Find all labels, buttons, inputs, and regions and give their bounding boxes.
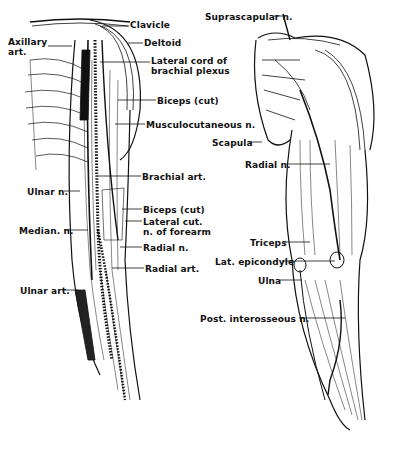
label-ulna: Ulna <box>258 276 281 286</box>
label-musculocutaneous-n: Musculocutaneous n. <box>146 120 255 130</box>
label-lat-epicondyle: Lat. epicondyle <box>215 257 294 267</box>
ribcage <box>25 59 88 170</box>
label-axillary-art: Axillary art. <box>8 37 48 57</box>
label-ulnar-n: Ulnar n. <box>27 187 68 197</box>
label-ulnar-art: Ulnar art. <box>20 286 70 296</box>
label-radial-n-right: Radial n. <box>245 160 291 170</box>
left-arm-anterior-view <box>25 19 140 400</box>
label-triceps: Triceps <box>250 238 287 248</box>
label-lateral-cord: Lateral cord of brachial plexus <box>151 56 231 76</box>
label-radial-n-left: Radial n. <box>143 243 189 253</box>
right-arm-posterior-view <box>255 14 375 430</box>
label-median-n: Median. n. <box>19 226 73 236</box>
label-deltoid: Deltoid <box>144 38 181 48</box>
label-clavicle: Clavicle <box>130 20 170 30</box>
label-scapula: Scapula <box>212 138 253 148</box>
label-lateral-cut-n: Lateral cut. n. of forearm <box>143 217 211 237</box>
label-radial-art: Radial art. <box>145 264 199 274</box>
label-biceps-cut-upper: Biceps (cut) <box>157 96 219 106</box>
label-suprascapular-n: Suprascapular n. <box>205 12 293 22</box>
label-post-interosseous-n: Post. interosseous n. <box>200 314 309 324</box>
label-biceps-cut-lower: Biceps (cut) <box>143 205 205 215</box>
label-brachial-art: Brachial art. <box>142 172 206 182</box>
